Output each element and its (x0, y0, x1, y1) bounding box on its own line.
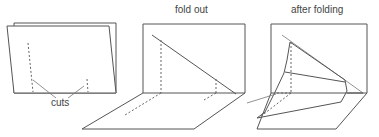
pop-up-card-diagram (0, 0, 379, 137)
front-card-sheet (7, 26, 116, 93)
popup-left-edge (257, 42, 290, 118)
after-cut-base (260, 93, 291, 117)
cut-base-left (125, 93, 161, 115)
popup-right-edge (341, 80, 347, 102)
popup-bottom-edge (257, 102, 341, 118)
fold-diagonal (152, 35, 236, 94)
after-back-wall (271, 24, 367, 93)
after-base (257, 93, 367, 129)
fold-out-base (82, 93, 245, 129)
after-folding-panel (247, 24, 367, 129)
fold-out-back-wall (143, 24, 245, 93)
cut-base-right (204, 93, 216, 100)
folded-card-panel (7, 23, 116, 98)
